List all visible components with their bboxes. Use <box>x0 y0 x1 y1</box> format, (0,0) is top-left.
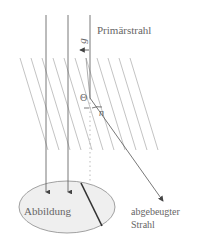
theta-label: Θ <box>80 92 87 103</box>
primary-beam-label: Primärstrahl <box>97 24 151 36</box>
g-vector-label: g <box>76 38 88 44</box>
n-vector-label: n <box>99 107 104 118</box>
image-label: Abbildung <box>24 205 71 217</box>
lattice-planes <box>20 58 158 150</box>
diffracted-beam-label-1: abgebeugter <box>131 206 180 217</box>
diffracted-beam-label-2: Strahl <box>131 219 155 230</box>
